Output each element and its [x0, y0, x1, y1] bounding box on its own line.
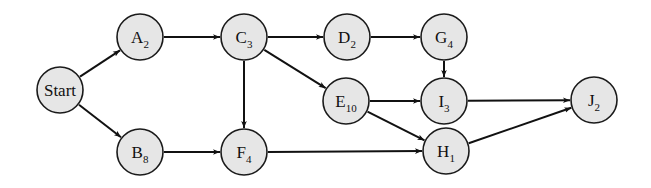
node-d: D2 — [324, 14, 370, 60]
precedence-diagram: StartA2B8C3D2G4E10I3F4H1J2 — [0, 0, 651, 188]
node-duration: 2 — [143, 38, 149, 50]
edge-f-to-h — [268, 151, 422, 152]
edge-start-to-b — [79, 105, 121, 138]
node-e: E10 — [323, 78, 369, 124]
node-b: B8 — [117, 129, 163, 175]
node-c: C3 — [221, 14, 267, 60]
node-duration: 1 — [449, 152, 455, 164]
node-duration: 4 — [447, 38, 453, 50]
node-j: J2 — [571, 77, 617, 123]
node-duration: 2 — [595, 101, 601, 113]
node-duration: 8 — [143, 153, 149, 165]
edge-e-to-h — [368, 112, 425, 141]
node-duration: 10 — [346, 102, 358, 114]
node-a: A2 — [117, 14, 163, 60]
edge-start-to-a — [80, 50, 120, 76]
node-circle — [323, 78, 369, 124]
node-duration: 4 — [246, 153, 252, 165]
node-h: H1 — [423, 128, 469, 174]
edge-h-to-j — [469, 108, 572, 143]
node-duration: 2 — [350, 38, 356, 50]
node-label: Start — [44, 81, 76, 100]
node-duration: 3 — [247, 38, 253, 50]
node-f: F4 — [221, 129, 267, 175]
edge-c-to-e — [264, 50, 325, 88]
edge-i-to-j — [468, 100, 570, 101]
node-g: G4 — [421, 14, 467, 60]
node-i: I3 — [421, 78, 467, 124]
node-start: Start — [37, 67, 83, 113]
node-duration: 3 — [444, 102, 450, 114]
